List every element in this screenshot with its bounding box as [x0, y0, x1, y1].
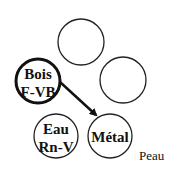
- caption-peau: Peau: [139, 148, 165, 163]
- node-top-circle: [58, 19, 104, 65]
- eau-label-1: Eau: [43, 121, 69, 137]
- bois-label-2: F-VB: [21, 84, 56, 100]
- diagram-canvas: Bois F-VB Eau Rn-V Métal Peau: [0, 0, 178, 172]
- bois-label-1: Bois: [24, 66, 52, 82]
- metal-label: Métal: [91, 129, 128, 145]
- five-elements-diagram: Bois F-VB Eau Rn-V Métal Peau: [0, 0, 178, 172]
- arrow-bois-to-metal: [60, 82, 96, 115]
- eau-label-2: Rn-V: [38, 139, 73, 155]
- node-right-circle: [100, 57, 146, 103]
